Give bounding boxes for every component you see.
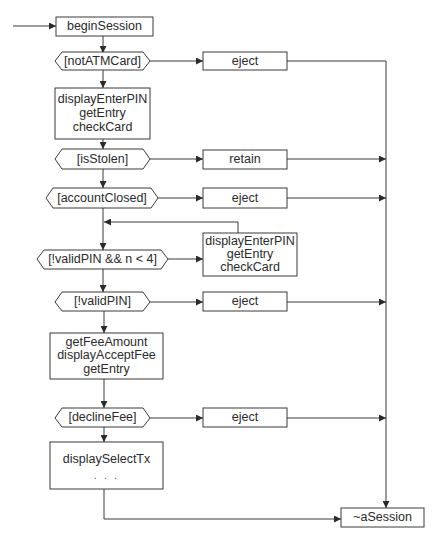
svg-text:. . .: . . . bbox=[94, 469, 119, 481]
node-enter-pin-2: displayEnterPIN getEntry checkCard bbox=[203, 233, 297, 276]
svg-text:checkCard: checkCard bbox=[220, 260, 280, 274]
svg-text:eject: eject bbox=[232, 410, 259, 424]
node-eject-1: eject bbox=[203, 52, 287, 70]
guard-decline-fee: [declineFee] bbox=[55, 408, 150, 427]
node-eject-2: eject bbox=[203, 188, 287, 208]
svg-text:getFeeAmount: getFeeAmount bbox=[66, 335, 149, 349]
svg-text:displaySelectTx: displaySelectTx bbox=[63, 452, 151, 466]
guard-invalid-pin-retry: [!validPIN && n < 4] bbox=[37, 250, 168, 269]
svg-text:[declineFee]: [declineFee] bbox=[68, 410, 136, 424]
svg-text:[!validPIN && n < 4]: [!validPIN && n < 4] bbox=[48, 252, 157, 266]
svg-text:displayEnterPIN: displayEnterPIN bbox=[58, 92, 148, 106]
svg-text:eject: eject bbox=[232, 294, 259, 308]
svg-text:checkCard: checkCard bbox=[73, 120, 133, 134]
svg-text:[!validPIN]: [!validPIN] bbox=[74, 294, 131, 308]
node-end-session: ~aSession bbox=[341, 508, 424, 527]
svg-text:displayEnterPIN: displayEnterPIN bbox=[205, 234, 295, 248]
node-begin-session: beginSession bbox=[56, 17, 153, 36]
edge-eject1-rail bbox=[287, 61, 386, 508]
svg-text:[accountClosed]: [accountClosed] bbox=[57, 191, 147, 205]
svg-text:displayAcceptFee: displayAcceptFee bbox=[57, 348, 156, 362]
svg-text:~aSession: ~aSession bbox=[353, 510, 412, 524]
edge-select-end bbox=[104, 489, 341, 519]
svg-text:eject: eject bbox=[232, 54, 259, 68]
svg-text:[isStolen]: [isStolen] bbox=[77, 152, 128, 166]
edge-loop-back bbox=[104, 222, 238, 233]
guard-not-atm-card: [notATMCard] bbox=[55, 52, 150, 70]
svg-text:getEntry: getEntry bbox=[227, 247, 274, 261]
svg-text:retain: retain bbox=[229, 152, 260, 166]
node-select-tx: displaySelectTx . . . bbox=[50, 442, 163, 489]
guard-account-closed: [accountClosed] bbox=[46, 188, 158, 208]
activity-diagram: beginSession [notATMCard] eject displayE… bbox=[0, 0, 437, 541]
node-enter-pin-1: displayEnterPIN getEntry checkCard bbox=[55, 88, 150, 139]
guard-invalid-pin: [!validPIN] bbox=[55, 292, 150, 311]
node-eject-3: eject bbox=[203, 292, 287, 311]
svg-text:eject: eject bbox=[232, 191, 259, 205]
svg-text:[notATMCard]: [notATMCard] bbox=[64, 54, 141, 68]
svg-text:getEntry: getEntry bbox=[79, 106, 126, 120]
guard-is-stolen: [isStolen] bbox=[55, 149, 150, 169]
node-retain: retain bbox=[203, 150, 287, 169]
node-fee: getFeeAmount displayAcceptFee getEntry bbox=[50, 333, 163, 379]
svg-text:getEntry: getEntry bbox=[83, 362, 130, 376]
node-eject-4: eject bbox=[203, 408, 287, 427]
svg-text:beginSession: beginSession bbox=[67, 19, 142, 33]
